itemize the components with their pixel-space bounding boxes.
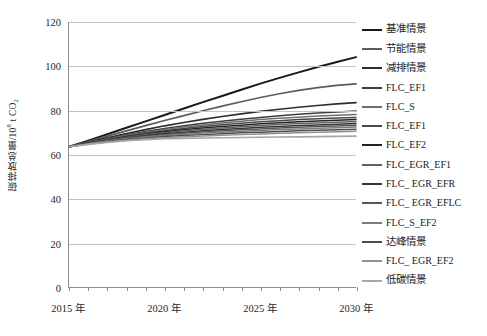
y-axis-title-subscript: 2 [12,99,19,102]
legend-item[interactable]: FLC_EGR_EF1 [362,155,484,174]
x-axis-tick-mark [319,287,320,291]
x-axis-tick-mark [357,287,358,291]
legend-line-swatch [362,164,382,166]
legend-line-swatch [362,222,382,224]
y-axis-title-prefix: 碳排放总量/10 [9,127,19,191]
legend-item[interactable]: FLC_ EGR_EFR [362,174,484,193]
legend-item[interactable]: 减排情景 [362,59,484,78]
legend-item[interactable]: FLC_S [362,97,484,116]
legend-item-label: 基准情景 [386,24,426,35]
legend-item-label: FLC_S_EF2 [386,218,437,228]
x-axis-tick-label: 2025 年 [243,300,277,315]
x-axis-tick-mark [107,287,108,291]
chart-legend: 基准情景节能情景减排情景FLC_EF1FLC_SFLC_EF1FLC_EF2FL… [362,20,484,290]
legend-item[interactable]: 低碳情景 [362,271,484,290]
x-axis-tick-mark [338,287,339,291]
legend-line-swatch [362,183,382,185]
chart-figure: 碳排放总量/108 t CO2 020406080100120 2015 年20… [0,0,487,336]
y-axis-tick-label: 120 [45,17,61,28]
legend-line-swatch [362,67,382,69]
gridline [69,244,356,245]
legend-item[interactable]: FLC_ EGR_EF2 [362,252,484,271]
legend-line-swatch [362,48,382,50]
x-axis-tick-mark [146,287,147,291]
legend-item[interactable]: FLC_EF1 [362,78,484,97]
legend-item-label: FLC_EF2 [386,140,426,150]
legend-item-label: FLC_ EGR_EFR [386,179,455,189]
legend-line-swatch [362,202,382,204]
y-axis-tick-label: 80 [51,105,62,116]
legend-item[interactable]: FLC_EF1 [362,116,484,135]
x-axis-tick-label: 2030 年 [339,300,373,315]
legend-item[interactable]: FLC_S_EF2 [362,213,484,232]
legend-item-label: FLC_S [386,102,415,112]
x-axis-tick-mark [299,287,300,291]
plot-area [68,22,356,288]
legend-line-swatch [362,125,382,127]
x-axis-tick-mark [261,287,262,291]
legend-line-swatch [362,260,382,262]
x-axis-tick-mark [127,287,128,291]
legend-item-label: FLC_ EGR_EFLC [386,198,461,208]
x-axis-tick-mark [69,287,70,291]
legend-item-label: FLC_ EGR_EF2 [386,256,454,266]
x-axis-tick-mark [165,287,166,291]
x-axis-tick-mark [203,287,204,291]
y-axis-title-text: 碳排放总量/108 t CO2 [5,99,20,191]
x-axis-tick-labels: 2015 年2020 年2025 年2030 年 [0,296,370,320]
gridline [69,111,356,112]
x-axis-tick-mark [223,287,224,291]
y-axis-tick-label: 0 [56,283,61,294]
legend-line-swatch [362,144,382,146]
legend-line-swatch [362,106,382,108]
legend-item-label: FLC_EF1 [386,83,426,93]
legend-line-swatch [362,29,382,31]
x-axis-tick-mark [184,287,185,291]
legend-item-label: FLC_EGR_EF1 [386,160,451,170]
legend-line-swatch [362,280,382,282]
legend-line-swatch [362,87,382,89]
x-axis-tick-mark [242,287,243,291]
legend-item[interactable]: 基准情景 [362,20,484,39]
gridline [69,199,356,200]
y-axis-tick-labels: 020406080100120 [24,0,66,300]
x-axis-tick-mark [280,287,281,291]
x-axis-tick-label: 2015 年 [51,300,85,315]
legend-item[interactable]: FLC_ EGR_EFLC [362,194,484,213]
y-axis-tick-label: 20 [51,238,62,249]
y-axis-tick-label: 100 [45,61,61,72]
legend-item[interactable]: 节能情景 [362,39,484,58]
legend-item[interactable]: FLC_EF2 [362,136,484,155]
legend-item[interactable]: 达峰情景 [362,232,484,251]
legend-item-label: 低碳情景 [386,275,426,286]
gridline [69,22,356,23]
legend-item-label: FLC_EF1 [386,121,426,131]
y-axis-title-exponent: 8 [5,124,12,127]
x-axis-tick-label: 2020 年 [147,300,181,315]
gridline [69,66,356,67]
y-axis-title-mid: t CO [9,102,19,124]
y-axis-tick-label: 60 [51,150,62,161]
gridline [69,155,356,156]
legend-line-swatch [362,241,382,243]
y-axis-tick-label: 40 [51,194,62,205]
legend-item-label: 减排情景 [386,63,426,74]
legend-item-label: 达峰情景 [386,237,426,248]
x-axis-tick-mark [88,287,89,291]
y-axis-title: 碳排放总量/108 t CO2 [2,0,24,290]
legend-item-label: 节能情景 [386,44,426,55]
